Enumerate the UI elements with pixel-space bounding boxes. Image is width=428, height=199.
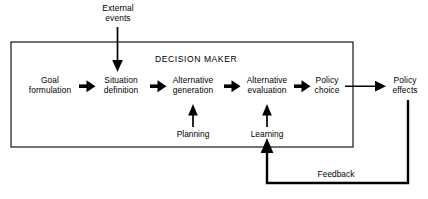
boundary-title: DECISION MAKER [155,54,237,64]
label-feedback: Feedback [306,169,366,179]
label-learning: Learning [237,129,297,139]
node-policy-choice: Policy choice [305,76,349,95]
arrow-learning-to-evaluation [262,104,272,127]
arrow-planning-to-generation [188,104,198,127]
node-alternative-generation: Alternative generation [159,76,227,95]
node-external-events-line2: events [88,14,148,24]
node-situation-definition-line2: definition [89,86,153,96]
label-planning: Planning [163,129,223,139]
decision-maker-diagram: DECISION MAKER External events Goal form… [0,0,428,199]
node-policy-effects-line2: effects [384,86,426,96]
node-alternative-evaluation: Alternative evaluation [233,76,301,95]
node-external-events: External events [88,4,148,23]
node-policy-effects: Policy effects [384,76,426,95]
node-situation-definition: Situation definition [89,76,153,95]
node-alternative-evaluation-line2: evaluation [233,86,301,96]
external-events-arrow [112,27,123,72]
node-policy-choice-line2: choice [305,86,349,96]
node-alternative-generation-line2: generation [159,86,227,96]
node-goal-formulation: Goal formulation [14,76,86,95]
node-goal-formulation-line2: formulation [14,86,86,96]
arrow-policy-choice-to-effects [345,81,386,92]
